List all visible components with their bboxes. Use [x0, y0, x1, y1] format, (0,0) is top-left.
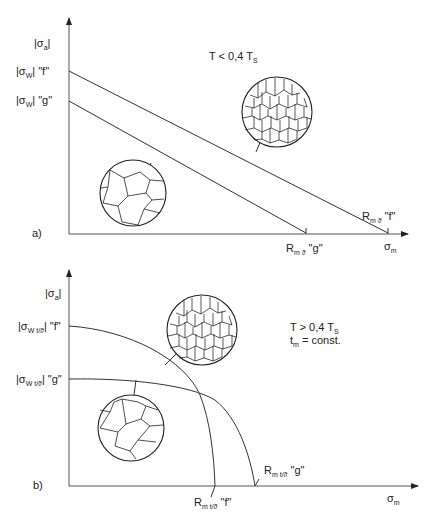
panel-a: |σa| |σW| "f" |σW| "g" T < 0,4 TS Rm ϑ "… — [16, 18, 408, 256]
haigh-diagram-figure: |σa| |σW| "f" |σW| "g" T < 0,4 TS Rm ϑ "… — [0, 0, 439, 527]
panel-a-x-axis-label: σm — [384, 240, 397, 254]
panel-b-leader-f — [211, 486, 215, 497]
panel-b-leader-g — [255, 479, 259, 486]
panel-b-x-axis-label: σm — [387, 492, 400, 506]
panel-a-label: a) — [32, 227, 42, 239]
panel-b-f-intercept-label: |σW t/ϑ| "f" — [18, 320, 61, 334]
coarse-grain-microstructure-icon — [98, 380, 164, 461]
panel-b-y-axis-label: |σa| — [45, 287, 61, 301]
coarse-grain-microstructure-icon — [100, 160, 166, 226]
panel-b-g-intercept-label: |σW t/ϑ| "g" — [16, 373, 62, 387]
fine-grain-microstructure-icon — [242, 77, 312, 152]
panel-a-condition: T < 0,4 TS — [209, 50, 258, 64]
panel-b-rm-f-label: Rm t/ϑ "f" — [194, 496, 231, 510]
panel-b: |σa| |σW t/ϑ| "f" |σW t/ϑ| "g" T > 0,4 T… — [16, 270, 418, 510]
panel-a-rm-f-label: Rm ϑ "f" — [362, 210, 396, 224]
panel-a-f-intercept-label: |σW| "f" — [16, 65, 49, 79]
panel-b-rm-g-label: Rm t/ϑ "g" — [264, 464, 305, 478]
panel-a-y-axis-label: |σa| — [34, 37, 50, 51]
panel-b-condition-time: tm = const. — [290, 334, 341, 348]
fine-grain-microstructure-icon — [165, 295, 237, 365]
panel-a-rm-g-label: Rm ϑ "g" — [286, 242, 323, 256]
panel-b-label: b) — [33, 479, 43, 491]
panel-a-g-intercept-label: |σW| "g" — [16, 94, 52, 108]
panel-b-condition-temp: T > 0,4 TS — [290, 321, 339, 335]
